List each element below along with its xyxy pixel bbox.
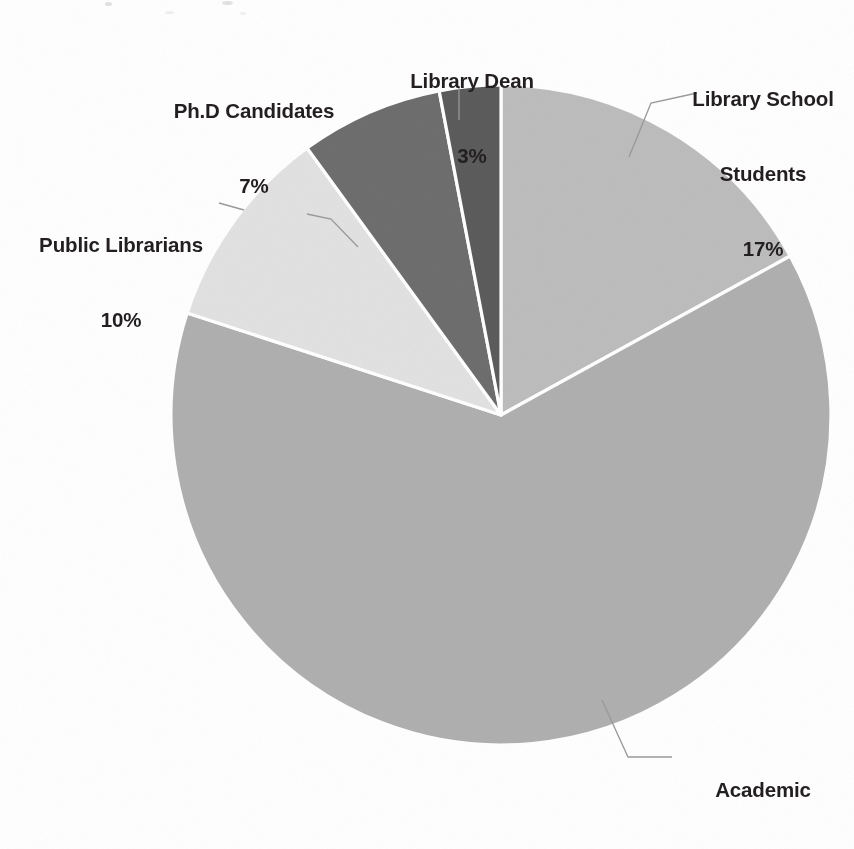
pie-chart: Library Dean 3% Ph.D Candidates 7% Publi… bbox=[0, 0, 854, 849]
slice-label-academic-librarians: Academic Librarians 63% bbox=[672, 727, 854, 849]
slice-label-library-school-students-name-line1: Library School bbox=[672, 86, 854, 111]
slice-label-library-school-students-name-line2: Students bbox=[672, 161, 854, 186]
slice-label-phd-candidates-name: Ph.D Candidates bbox=[139, 98, 369, 123]
slice-label-public-librarians-name: Public Librarians bbox=[5, 232, 237, 257]
slice-label-library-dean-percent: 3% bbox=[382, 143, 562, 168]
scan-artifact-speck bbox=[105, 2, 112, 6]
scan-artifact-speck bbox=[165, 11, 174, 14]
slice-label-academic-librarians-name-line1: Academic bbox=[672, 777, 854, 802]
scan-artifact-speck bbox=[240, 12, 246, 15]
slice-label-library-dean: Library Dean 3% bbox=[382, 18, 562, 218]
slice-label-library-dean-name: Library Dean bbox=[382, 68, 562, 93]
slice-label-public-librarians: Public Librarians 10% bbox=[5, 182, 237, 382]
slice-label-library-school-students-percent: 17% bbox=[672, 236, 854, 261]
slice-label-library-school-students: Library School Students 17% bbox=[672, 36, 854, 311]
scan-artifact-speck bbox=[222, 1, 233, 5]
slice-label-public-librarians-percent: 10% bbox=[5, 307, 237, 332]
